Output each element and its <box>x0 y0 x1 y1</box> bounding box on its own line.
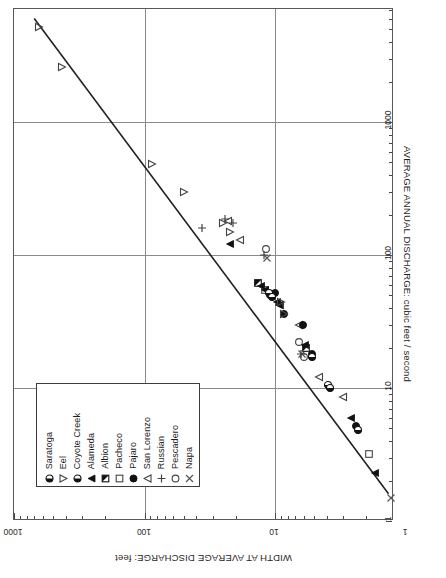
legend-marker-x-icon <box>185 471 194 485</box>
legend-item-alameda[interactable]: Alameda <box>84 389 98 485</box>
legend-label: Albion <box>100 443 110 469</box>
x-tick-label-1000: 1000 <box>383 111 393 130</box>
legend-item-eel[interactable]: Eel <box>56 389 70 485</box>
data-point-saratoga <box>308 353 317 362</box>
y-axis-title: WIDTH AT AVERAGE DISCHARGE: feet <box>13 548 393 566</box>
x-tick-label-100: 100 <box>383 246 393 260</box>
y-tick-label-1: 1 <box>393 527 417 537</box>
data-point-russian <box>259 251 268 260</box>
data-point-russian <box>198 223 207 232</box>
data-point-eel <box>57 62 66 71</box>
y-tick-label-100: 100 <box>132 527 156 537</box>
legend-item-pescadero[interactable]: Pescadero <box>168 389 182 485</box>
data-point-eel <box>276 298 285 307</box>
legend-label: Saratoga <box>44 432 54 469</box>
legend-box: NapaPescaderoRussianSan LorenzoPajaroPac… <box>36 383 200 487</box>
legend-label: Pescadero <box>170 425 180 469</box>
data-point-pajaro <box>299 320 308 329</box>
legend-label: Napa <box>184 447 194 469</box>
legend-entries: NapaPescaderoRussianSan LorenzoPajaroPac… <box>37 384 201 488</box>
legend-label: San Lorenzo <box>142 417 152 469</box>
data-point-alameda <box>371 468 380 477</box>
data-point-san-lorenzo <box>236 235 245 244</box>
x-axis-title: AVERAGE ANNUAL DISCHARGE: cubic feet / s… <box>398 8 416 520</box>
legend-marker-square-half-icon <box>101 471 110 485</box>
legend-item-napa[interactable]: Napa <box>182 389 196 485</box>
legend-item-russian[interactable]: Russian <box>154 389 168 485</box>
legend-marker-triangle-left-filled-icon <box>87 471 96 485</box>
legend-marker-circle-half-icon <box>45 471 54 485</box>
legend-label: Pajaro <box>128 442 138 469</box>
data-point-eel <box>147 160 156 169</box>
legend-marker-circle-half-icon <box>73 471 82 485</box>
y-axis-title-text: WIDTH AT AVERAGE DISCHARGE: feet <box>115 553 292 564</box>
data-point-eel <box>279 310 288 319</box>
data-point-alameda <box>347 413 356 422</box>
data-point-alameda <box>226 240 235 249</box>
data-point-san-lorenzo <box>315 373 324 382</box>
legend-item-pajaro[interactable]: Pajaro <box>126 389 140 485</box>
data-point-saratoga <box>325 384 334 393</box>
data-point-alameda <box>300 341 309 350</box>
chart-canvas: 1101001000 1000100101 AVERAGE ANNUAL DIS… <box>0 0 446 578</box>
data-point-coyote-creek <box>354 426 363 435</box>
legend-marker-circle-filled-icon <box>129 471 138 485</box>
x-tick-label-10: 10 <box>383 381 393 390</box>
legend-item-saratoga[interactable]: Saratoga <box>42 389 56 485</box>
legend-marker-triangle-left-open-icon <box>143 471 152 485</box>
data-point-eel <box>35 22 44 31</box>
legend-item-albion[interactable]: Albion <box>98 389 112 485</box>
data-point-san-lorenzo <box>339 393 348 402</box>
data-point-eel <box>226 227 235 236</box>
x-axis-title-text: AVERAGE ANNUAL DISCHARGE: cubic feet / s… <box>402 146 413 382</box>
legend-label: Alameda <box>86 433 96 469</box>
data-point-coyote-creek <box>267 293 276 302</box>
data-point-eel <box>179 187 188 196</box>
legend-item-pacheco[interactable]: Pacheco <box>112 389 126 485</box>
legend-item-san-lorenzo[interactable]: San Lorenzo <box>140 389 154 485</box>
legend-marker-circle-open-icon <box>171 471 180 485</box>
y-tick-label-1000: 1000 <box>1 527 25 537</box>
legend-marker-plus-icon <box>157 471 166 485</box>
legend-label: Eel <box>58 456 68 469</box>
x-tick-label-1: 1 <box>383 517 393 522</box>
data-point-eel <box>219 218 228 227</box>
legend-marker-square-open-icon <box>115 471 124 485</box>
legend-label: Coyote Creek <box>72 413 82 469</box>
legend-label: Pacheco <box>114 433 124 469</box>
data-point-pacheco <box>365 449 374 458</box>
legend-marker-triangle-right-open-icon <box>59 471 68 485</box>
data-point-napa <box>386 493 395 502</box>
legend-label: Russian <box>156 436 166 469</box>
legend-item-coyote-creek[interactable]: Coyote Creek <box>70 389 84 485</box>
y-tick-label-10: 10 <box>262 527 286 537</box>
